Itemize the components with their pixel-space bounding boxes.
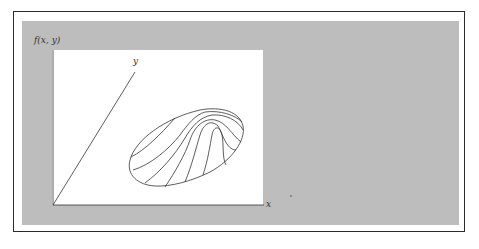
stray-mark [290,195,292,197]
y-axis [53,72,135,205]
surface-mound [129,109,243,187]
surface-diagram [0,0,479,249]
